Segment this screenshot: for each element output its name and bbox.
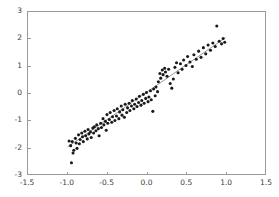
x-tick-label: 1.0 (220, 179, 232, 187)
data-point (113, 109, 116, 112)
data-point (98, 134, 101, 137)
data-point (195, 58, 198, 61)
x-tick-mark (67, 172, 68, 175)
data-point (108, 118, 111, 121)
data-point (87, 128, 90, 131)
data-point (74, 137, 77, 140)
y-tick-label: 2 (2, 35, 22, 43)
data-point (154, 94, 157, 97)
data-point (75, 141, 78, 144)
data-point (86, 137, 89, 140)
data-point (106, 122, 109, 125)
data-point (116, 107, 119, 110)
data-point (126, 106, 129, 109)
data-point (99, 122, 102, 125)
y-tick-label: -2 (2, 144, 22, 152)
x-tick-label: -1.0 (60, 179, 75, 187)
data-point (105, 129, 108, 132)
x-tick-mark (186, 172, 187, 175)
x-tick-mark (147, 172, 148, 175)
data-point (142, 93, 145, 96)
data-point (157, 80, 160, 83)
data-point (202, 46, 205, 49)
data-point (117, 117, 120, 120)
data-point (204, 52, 207, 55)
data-point (128, 109, 131, 112)
y-tick-mark (28, 148, 31, 149)
data-point (102, 123, 105, 126)
y-tick-mark (28, 66, 31, 67)
data-point (167, 68, 170, 71)
data-point (188, 60, 191, 63)
data-point (154, 86, 157, 89)
data-point (220, 42, 223, 45)
data-point (181, 68, 184, 71)
data-point (118, 110, 121, 113)
data-point (109, 111, 112, 114)
data-point (79, 138, 82, 141)
data-point (71, 151, 74, 154)
data-point (84, 134, 87, 137)
data-point (138, 95, 141, 98)
data-point (135, 97, 138, 100)
data-point (192, 53, 195, 56)
data-point (137, 101, 140, 104)
data-point (130, 104, 133, 107)
data-point (150, 98, 153, 101)
data-point (139, 104, 142, 107)
data-point (147, 96, 150, 99)
data-point (120, 104, 123, 107)
data-point (156, 90, 159, 93)
data-point (90, 136, 93, 139)
data-point (211, 42, 214, 45)
x-tick-label: -1.5 (20, 179, 35, 187)
data-point (89, 130, 92, 133)
data-point (78, 142, 81, 145)
data-point (68, 140, 71, 143)
data-point (191, 65, 194, 68)
data-point (135, 105, 138, 108)
data-point (144, 97, 147, 100)
data-point (82, 140, 85, 143)
x-tick-mark (226, 172, 227, 175)
data-point (197, 50, 200, 53)
data-point (177, 71, 180, 74)
data-point (215, 25, 218, 28)
data-point (72, 149, 75, 152)
data-point (182, 59, 185, 62)
data-point (143, 102, 146, 105)
data-point (147, 100, 150, 103)
data-points-group (68, 25, 227, 165)
data-point (100, 126, 103, 129)
data-point (115, 114, 118, 117)
data-point (209, 49, 212, 52)
scatter-plot-figure: -3-2-10123-1.5-1.0-0.50.00.51.01.5 (0, 0, 279, 197)
plot-axes (27, 11, 266, 175)
data-point (199, 56, 202, 59)
data-point (222, 37, 225, 40)
x-tick-label: 0.0 (141, 179, 153, 187)
data-point (121, 108, 124, 111)
x-tick-label: -0.5 (99, 179, 114, 187)
data-point (140, 99, 143, 102)
data-point (102, 117, 105, 120)
data-point (186, 55, 189, 58)
data-point (179, 62, 182, 65)
data-point (71, 140, 74, 143)
y-tick-label: 1 (2, 62, 22, 70)
data-point (133, 103, 136, 106)
y-tick-label: 3 (2, 7, 22, 15)
data-point (159, 77, 162, 80)
data-point (70, 161, 73, 164)
data-point (105, 113, 108, 116)
data-point (123, 116, 126, 119)
data-point (162, 73, 165, 76)
y-tick-mark (28, 93, 31, 94)
data-point (81, 135, 84, 138)
y-tick-mark (28, 120, 31, 121)
data-point (75, 147, 78, 150)
data-point (125, 111, 128, 114)
data-point (97, 127, 100, 130)
data-point (169, 82, 172, 85)
data-point (166, 75, 169, 78)
